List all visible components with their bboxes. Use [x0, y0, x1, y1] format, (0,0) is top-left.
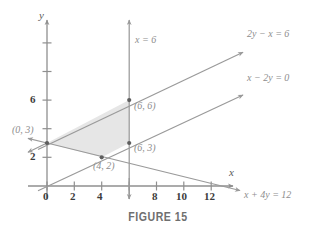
x-tick-label-12: 12 [204, 191, 215, 202]
y-tick-label-6: 6 [30, 94, 36, 105]
point-label-4-2: (4, 2) [93, 161, 115, 171]
equation-label-x-plus-4y-equals-12: x + 4y = 12 [244, 190, 291, 200]
equation-label-x-equals-6: x = 6 [135, 35, 156, 45]
figure-container: y x 0 2 4 8 10 12 2 6 2y − x = 6 x − 2y … [0, 0, 316, 232]
x-tick-label-10: 10 [176, 191, 187, 202]
equation-label-x-minus-2y-equals-0: x − 2y = 0 [247, 73, 289, 83]
x-tick-label-2: 2 [70, 191, 76, 202]
x-tick-label-0: 0 [43, 191, 49, 202]
y-axis-label: y [39, 10, 44, 21]
y-tick-label-2: 2 [30, 151, 36, 162]
equation-label-2y-minus-x-equals-6: 2y − x = 6 [247, 29, 289, 39]
point-0-3 [45, 141, 49, 145]
point-4-2 [100, 155, 104, 159]
x-axis-label: x [229, 167, 234, 178]
point-6-6 [127, 98, 131, 102]
point-label-6-6: (6, 6) [134, 101, 156, 111]
point-label-6-3: (6, 3) [134, 143, 156, 153]
feasible-region-shading [47, 100, 129, 157]
point-label-0-3: (0, 3) [12, 125, 34, 135]
x-tick-label-8: 8 [152, 191, 158, 202]
x-tick-label-4: 4 [97, 191, 103, 202]
figure-caption: FIGURE 15 [19, 210, 297, 224]
point-6-3 [127, 141, 131, 145]
line-x-plus-4y-equals-12-left-arrow [28, 138, 47, 143]
